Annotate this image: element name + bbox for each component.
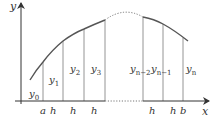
tick-label-h-4: h [149, 105, 155, 116]
y-axis-label: y [9, 0, 17, 13]
trapezoidal-rule-diagram: y x y0 y1 y2 y3 yn−2 yn−1 yn a h h h h h… [0, 0, 218, 124]
ordinate-labels: y0 y1 y2 y3 yn−2 yn−1 yn [28, 63, 197, 102]
tick-label-h-2: h [70, 105, 76, 116]
label-yn-2: yn−2 [129, 63, 150, 77]
label-y2: y2 [69, 63, 80, 77]
curve-right [143, 17, 188, 41]
label-y0: y0 [28, 88, 39, 102]
tick-label-h-5: h [170, 105, 176, 116]
tick-label-h-3: h [91, 105, 97, 116]
tick-label-b: b [180, 105, 186, 116]
label-y3: y3 [90, 63, 101, 77]
label-y1: y1 [48, 74, 59, 88]
label-yn: yn [185, 63, 197, 77]
ordinate-lines [43, 17, 183, 101]
curve-dotted [105, 12, 143, 20]
tick-label-h-1: h [50, 105, 56, 116]
tick-label-a: a [40, 105, 46, 116]
x-axis-label: x [202, 105, 209, 118]
x-tick-labels: a h h h h h b [40, 105, 186, 116]
label-yn-1: yn−1 [150, 63, 171, 77]
